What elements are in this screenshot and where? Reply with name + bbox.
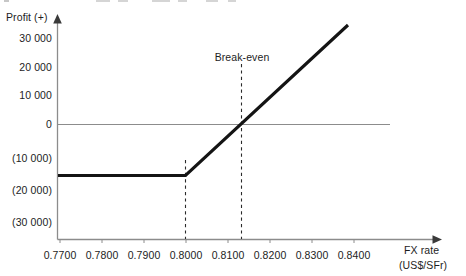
y-tick-label-20000: 20 000 [0, 61, 52, 73]
profit-profile-line [58, 25, 348, 176]
y-tick-label-neg10000: (10 000) [0, 152, 52, 164]
y-tick-label-neg20000: (20 000) [0, 184, 52, 196]
cut-off-title-remnant [4, 0, 236, 2]
x-axis-title: FX rate [404, 244, 439, 256]
x-axis-arrowhead [433, 235, 443, 244]
y-tick-label-30000: 30 000 [0, 32, 52, 44]
y-tick-label-neg30000: (30 000) [0, 216, 52, 228]
chart-canvas [0, 0, 466, 276]
y-tick-label-0: 0 [0, 118, 52, 130]
y-tick-label-10000: 10 000 [0, 89, 52, 101]
x-tick-label-7: 0.8400 [328, 249, 380, 261]
chart-container: Profit (+) 30 000 20 000 10 000 0 (10 00… [0, 0, 466, 276]
x-axis-title-units: (US$/SFr) [399, 259, 447, 271]
y-axis-arrowhead [53, 14, 62, 24]
break-even-annotation-label: Break-even [196, 51, 288, 63]
y-axis-title: Profit (+) [6, 11, 48, 23]
